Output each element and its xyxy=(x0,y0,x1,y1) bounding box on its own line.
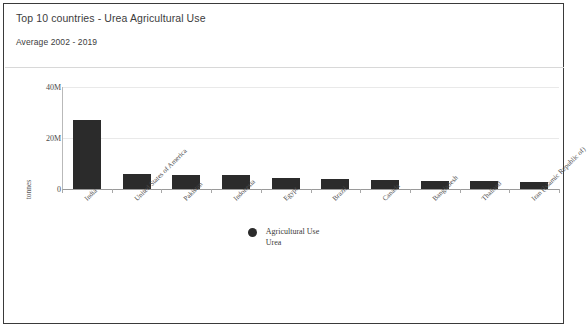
y-axis-ticks: 020M40M xyxy=(4,67,61,197)
bar-series xyxy=(62,87,559,189)
bar-slot xyxy=(112,87,162,189)
bar-slot xyxy=(360,87,410,189)
x-axis-tick xyxy=(211,189,212,193)
page-title: Top 10 countries - Urea Agricultural Use xyxy=(16,12,206,24)
x-axis-tick xyxy=(161,189,162,193)
chart-header: Top 10 countries - Urea Agricultural Use… xyxy=(4,4,563,67)
bar-slot xyxy=(460,87,510,189)
x-axis-tick xyxy=(62,189,63,193)
y-axis-tick-label: 20M xyxy=(21,134,61,143)
x-axis-tick xyxy=(509,189,510,193)
bar-slot xyxy=(211,87,261,189)
legend-label: Agricultural Use Urea xyxy=(266,226,320,248)
x-axis-tick xyxy=(410,189,411,193)
x-axis-tick xyxy=(311,189,312,193)
legend-label-line1: Agricultural Use xyxy=(266,227,320,236)
y-axis-tick-label: 40M xyxy=(21,83,61,92)
bar[interactable] xyxy=(73,120,101,189)
bar-slot xyxy=(311,87,361,189)
bar-slot xyxy=(261,87,311,189)
plot-area: tonnes 020M40M IndiaUnited States of Ame… xyxy=(4,67,563,324)
y-axis-tick-label: 0 xyxy=(21,185,61,194)
bar-slot xyxy=(410,87,460,189)
chart-legend: Agricultural Use Urea xyxy=(4,226,563,248)
legend-marker-icon xyxy=(248,228,257,237)
x-axis-tick xyxy=(460,189,461,193)
legend-item: Agricultural Use Urea xyxy=(248,226,320,248)
x-axis-tick xyxy=(559,189,560,193)
x-axis-tick xyxy=(261,189,262,193)
page-frame: Top 10 countries - Urea Agricultural Use… xyxy=(3,3,564,324)
x-axis-tick xyxy=(112,189,113,193)
legend-label-line2: Urea xyxy=(266,237,320,248)
x-axis-tick xyxy=(360,189,361,193)
bar-slot xyxy=(161,87,211,189)
page-subtitle: Average 2002 - 2019 xyxy=(16,37,97,47)
bar-slot xyxy=(62,87,112,189)
